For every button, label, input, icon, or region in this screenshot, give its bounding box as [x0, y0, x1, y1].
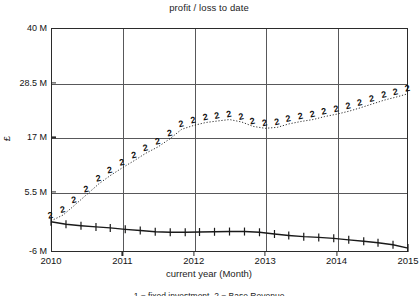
y-tick-label: 28.5 M [0, 78, 47, 88]
y-tick-mark [51, 137, 56, 138]
y-tick-mark [51, 82, 56, 83]
x-tick-label: 2010 [40, 255, 61, 266]
x-tick-mark [193, 252, 194, 256]
x-tick-mark [265, 252, 266, 256]
x-tick-label: 2014 [326, 255, 347, 266]
y-tick-label: 40 M [0, 23, 47, 33]
x-axis-title: current year (Month) [0, 268, 418, 279]
x-tick-label: 2013 [255, 255, 276, 266]
x-tick-label: 2011 [112, 255, 132, 266]
x-tick-label: 2012 [183, 255, 204, 266]
x-tick-mark [122, 252, 123, 256]
y-tick-label: 17 M [0, 132, 47, 142]
x-tick-label: 2015 [397, 255, 418, 266]
y-tick-label: 5.5 M [0, 187, 47, 197]
y-tick-mark [51, 192, 56, 193]
x-tick-mark [336, 252, 337, 256]
legend-crop-mask [0, 296, 418, 302]
